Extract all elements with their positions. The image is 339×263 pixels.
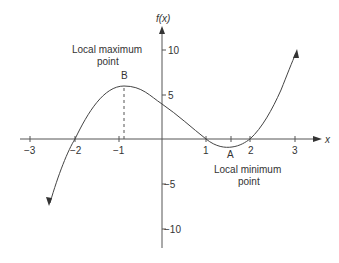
x-tick-label: −1 — [113, 145, 125, 156]
y-axis-title: f(x) — [156, 13, 170, 24]
x-axis-title: x — [324, 134, 331, 145]
x-tick-label: 3 — [292, 145, 298, 156]
curve-arrow-up-icon — [293, 49, 299, 58]
function-graph: −3 −2 −1 1 2 3 10 5 −5 −10 f(x) x Local … — [0, 0, 339, 263]
min-annotation-line2: point — [238, 176, 260, 187]
max-annotation-line1: Local maximum — [72, 44, 142, 55]
y-tick-label: −10 — [164, 224, 181, 235]
y-axis-arrow-icon — [159, 26, 165, 34]
y-tick-label: 5 — [168, 90, 174, 101]
max-point-label: B — [121, 70, 128, 81]
x-tick-label: −3 — [24, 145, 36, 156]
y-tick-label: −5 — [164, 179, 176, 190]
max-annotation-line2: point — [97, 56, 119, 67]
curve-arrow-down-icon — [46, 197, 52, 206]
x-tick-label: 1 — [203, 145, 209, 156]
x-tick-label: −2 — [70, 145, 82, 156]
x-tick-label: 2 — [248, 145, 254, 156]
x-axis-arrow-icon — [313, 136, 322, 142]
y-tick-label: 10 — [168, 45, 180, 56]
min-point-label: A — [227, 149, 234, 160]
min-annotation-line1: Local minimum — [214, 164, 281, 175]
